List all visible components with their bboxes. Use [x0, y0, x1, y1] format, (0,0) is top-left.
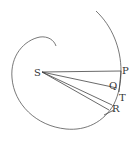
line-S-P [42, 71, 121, 72]
line-S-R-upper [42, 72, 112, 105]
label-S: S [34, 67, 41, 78]
label-R: R [112, 103, 120, 114]
line-S-Q [42, 72, 117, 88]
line-S-R-lower [42, 72, 109, 110]
spiral-diagram: S P Q T R [0, 0, 136, 141]
label-P: P [122, 65, 129, 76]
label-Q: Q [109, 80, 117, 91]
label-T: T [119, 92, 126, 103]
outer-spiral-curve [12, 11, 121, 129]
